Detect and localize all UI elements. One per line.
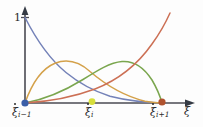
node-label-right-subscript: i+1 [156,110,169,119]
node-marker-mid[interactable] [89,98,96,105]
node-label-left: ξi−1 [12,107,32,119]
figure-canvas: 1 ξi−1 ξi ξi+1 ξ [0,0,203,127]
y-axis [21,6,29,103]
node-label-mid-subscript: i [91,110,93,119]
node-label-left-subscript: i−1 [18,110,31,119]
node-marker-left[interactable] [21,99,28,106]
node-label-mid: ξi [85,107,93,119]
y-tick-label-one: 1 [14,12,21,23]
xi-hat-symbol-left: ξ [12,107,18,118]
x-axis-label: ξ [184,106,190,117]
y-axis-arrowhead [22,6,29,15]
node-label-right: ξi+1 [150,107,170,119]
xi-hat-symbol-right: ξ [150,107,156,118]
curve-red-increasing [25,13,170,103]
curve-green-right-hump [25,61,162,103]
node-marker-right[interactable] [158,98,165,105]
xi-hat-symbol-mid: ξ [85,107,91,118]
